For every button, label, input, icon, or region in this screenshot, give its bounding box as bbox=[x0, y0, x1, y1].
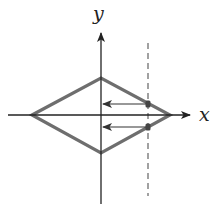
lower-intersection-point bbox=[146, 124, 151, 131]
upper-intersection-point bbox=[146, 101, 151, 108]
y-axis-label: y bbox=[92, 2, 104, 24]
diagram-canvas: y x bbox=[0, 0, 221, 206]
x-axis-label: x bbox=[199, 103, 210, 125]
